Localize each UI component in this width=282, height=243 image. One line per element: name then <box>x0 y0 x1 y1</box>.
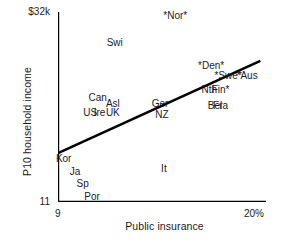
y-axis-tick-label-bottom: 11 <box>6 196 50 207</box>
data-point-label: UK <box>106 108 120 118</box>
x-axis-tick-label-right: 20% <box>244 208 264 219</box>
data-point-label: Ger <box>152 99 169 109</box>
data-point-label: Can <box>89 93 107 103</box>
data-point-label: Kor <box>56 154 72 164</box>
data-point-label: Ire <box>94 108 106 118</box>
data-point-label: Fin* <box>212 85 230 95</box>
data-point-label: Fra <box>213 101 228 111</box>
data-point-label: NZ <box>155 110 168 120</box>
x-axis-tick-label-left: 9 <box>55 208 61 219</box>
x-axis-title: Public insurance <box>57 220 272 232</box>
data-point-label: *Aus <box>237 71 258 81</box>
y-axis-tick-label-top: $32k <box>6 6 50 17</box>
data-point-label: It <box>161 164 167 174</box>
plot-area: *Nor*Swi*Den**Swe**AusNthFin*CanAslGerBe… <box>58 12 266 202</box>
scatter-chart: P10 household income $32k 11 9 20% Publi… <box>0 0 282 243</box>
data-point-label: Ja <box>70 167 81 177</box>
data-point-label: Sp <box>76 179 88 189</box>
data-point-label: Swi <box>107 38 123 48</box>
data-point-label: *Nor* <box>163 11 187 21</box>
data-point-label: Por <box>84 192 100 202</box>
